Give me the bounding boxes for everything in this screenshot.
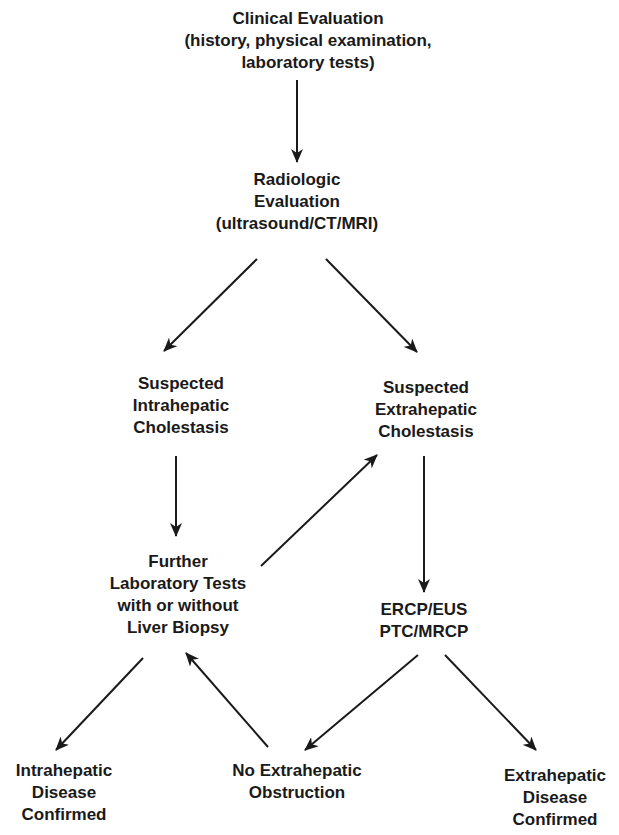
node-line: Confirmed xyxy=(504,809,606,831)
node-radiologic-evaluation: Radiologic Evaluation (ultrasound/CT/MRI… xyxy=(216,169,378,235)
node-ercp-eus-ptc-mrcp: ERCP/EUS PTC/MRCP xyxy=(380,599,469,643)
node-suspected-extrahepatic: Suspected Extrahepatic Cholestasis xyxy=(375,377,477,443)
node-line: Clinical Evaluation xyxy=(184,8,431,30)
node-line: Disease xyxy=(504,787,606,809)
node-line: No Extrahepatic xyxy=(232,760,361,782)
node-line: Suspected xyxy=(133,373,229,395)
node-line: Confirmed xyxy=(16,804,112,826)
node-line: Cholestasis xyxy=(133,417,229,439)
arrow-ercp-to-no-obstruction xyxy=(305,655,418,750)
arrow-further-tests-to-extra-suspected xyxy=(261,455,377,566)
arrow-radiologic-to-extra-suspected xyxy=(326,259,417,352)
arrow-ercp-to-extra-confirmed xyxy=(445,655,536,750)
node-further-laboratory-tests: Further Laboratory Tests with or without… xyxy=(110,551,247,639)
node-line: Suspected xyxy=(375,377,477,399)
node-line: Evaluation xyxy=(216,191,378,213)
node-line: laboratory tests) xyxy=(184,52,431,74)
node-line: Disease xyxy=(16,782,112,804)
node-line: with or without xyxy=(110,595,247,617)
node-line: (ultrasound/CT/MRI) xyxy=(216,213,378,235)
arrow-radiologic-to-intra-suspected xyxy=(164,259,257,351)
node-suspected-intrahepatic: Suspected Intrahepatic Cholestasis xyxy=(133,373,229,439)
node-line: ERCP/EUS xyxy=(380,599,469,621)
node-line: Extrahepatic xyxy=(375,399,477,421)
node-line: Radiologic xyxy=(216,169,378,191)
arrow-no-obstruction-to-further-tests xyxy=(186,653,268,747)
arrows-layer xyxy=(0,0,619,835)
node-intrahepatic-disease-confirmed: Intrahepatic Disease Confirmed xyxy=(16,760,112,826)
node-line: PTC/MRCP xyxy=(380,621,469,643)
node-line: (history, physical examination, xyxy=(184,30,431,52)
node-line: Further xyxy=(110,551,247,573)
node-line: Liver Biopsy xyxy=(110,617,247,639)
node-extrahepatic-disease-confirmed: Extrahepatic Disease Confirmed xyxy=(504,765,606,831)
node-line: Extrahepatic xyxy=(504,765,606,787)
node-line: Laboratory Tests xyxy=(110,573,247,595)
arrow-further-tests-to-intra-confirmed xyxy=(56,658,143,750)
node-line: Intrahepatic xyxy=(16,760,112,782)
node-line: Intrahepatic xyxy=(133,395,229,417)
node-line: Cholestasis xyxy=(375,421,477,443)
node-clinical-evaluation: Clinical Evaluation (history, physical e… xyxy=(184,8,431,74)
node-line: Obstruction xyxy=(232,782,361,804)
node-no-extrahepatic-obstruction: No Extrahepatic Obstruction xyxy=(232,760,361,804)
